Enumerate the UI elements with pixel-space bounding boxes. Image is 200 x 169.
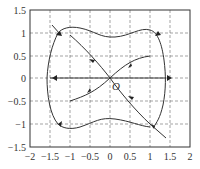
svg-text:0.5: 0.5 [124,151,137,162]
phase-portrait-chart: 1.5 1 0.5 0 −0.5 −1 −1.5 −2 −1.5 −1 −0.5… [0,0,200,169]
arrow-icon [167,75,172,81]
trajectories: O [47,25,172,138]
y-tick-labels: 1.5 1 0.5 0 −0.5 −1 −1.5 [8,5,26,153]
svg-text:0: 0 [21,73,26,84]
svg-text:−0.5: −0.5 [81,151,99,162]
svg-text:0: 0 [108,151,113,162]
svg-text:−1: −1 [65,151,76,162]
svg-text:1: 1 [148,151,153,162]
svg-text:−1: −1 [15,119,26,130]
arrow-icon [128,96,134,100]
svg-text:2: 2 [188,151,193,162]
svg-text:−2: −2 [25,151,36,162]
svg-text:1: 1 [21,28,26,39]
outer-left-lower-curve [47,33,150,128]
x-tick-labels: −2 −1.5 −1 −0.5 0 0.5 1 1.5 2 [25,151,193,162]
origin-label: O [112,80,120,92]
svg-text:1.5: 1.5 [14,5,27,16]
svg-text:−0.5: −0.5 [8,96,26,107]
svg-text:1.5: 1.5 [164,151,177,162]
svg-text:−1.5: −1.5 [8,142,26,153]
arrow-icon [52,75,57,81]
svg-text:0.5: 0.5 [14,51,27,62]
svg-text:−1.5: −1.5 [41,151,59,162]
